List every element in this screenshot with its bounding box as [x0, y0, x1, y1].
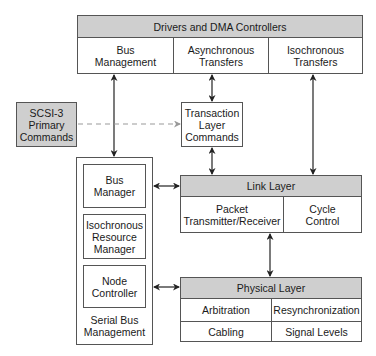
bus-manager-label: Bus Manager: [84, 165, 145, 207]
packet-transmitter-cell: Packet Transmitter/Receiver: [181, 197, 283, 232]
cabling-cell: Cabling: [181, 321, 271, 341]
signal-levels-cell: Signal Levels: [271, 321, 361, 341]
bus-manager-box: Bus Manager: [83, 164, 146, 208]
node-controller-box: Node Controller: [83, 265, 146, 308]
isochronous-resource-manager-box: Isochronous Resource Manager: [83, 214, 146, 259]
serial-bus-management-box: Bus Manager Isochronous Resource Manager…: [76, 157, 153, 345]
link-layer-title: Link Layer: [181, 176, 361, 197]
scsi3-primary-commands-box: SCSI-3 Primary Commands: [16, 102, 77, 147]
cycle-control-cell: Cycle Control: [283, 197, 361, 232]
drivers-dma-box: Drivers and DMA Controllers Bus Manageme…: [77, 15, 363, 74]
arbitration-cell: Arbitration: [181, 299, 271, 321]
bus-management-cell: Bus Management: [78, 38, 173, 73]
transaction-layer-box: Transaction Layer Commands: [181, 102, 243, 147]
physical-layer-box: Physical Layer Arbitration Resynchroniza…: [180, 277, 362, 342]
isochronous-transfers-cell: Isochronous Transfers: [268, 38, 362, 73]
asynchronous-transfers-cell: Asynchronous Transfers: [173, 38, 268, 73]
resynchronization-cell: Resynchronization: [271, 299, 361, 321]
drivers-dma-title: Drivers and DMA Controllers: [78, 16, 362, 38]
irm-label: Isochronous Resource Manager: [84, 215, 145, 258]
scsi3-label: SCSI-3 Primary Commands: [17, 103, 76, 146]
physical-layer-title: Physical Layer: [181, 278, 361, 299]
link-layer-box: Link Layer Packet Transmitter/Receiver C…: [180, 175, 362, 233]
serial-bus-management-caption: Serial Bus Management: [77, 310, 152, 342]
node-controller-label: Node Controller: [84, 266, 145, 307]
transaction-label: Transaction Layer Commands: [182, 103, 242, 146]
